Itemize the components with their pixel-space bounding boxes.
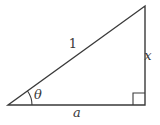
right-angle-marker <box>133 93 145 105</box>
base-side-label: a <box>73 105 81 120</box>
right-triangle-diagram: 1 x a θ <box>0 0 160 125</box>
triangle-outline <box>8 6 145 105</box>
angle-arc <box>28 91 33 105</box>
triangle-svg: 1 x a θ <box>0 0 160 125</box>
vertical-side-label: x <box>144 48 152 63</box>
hypotenuse-label: 1 <box>69 36 77 51</box>
angle-theta-label: θ <box>34 87 42 102</box>
